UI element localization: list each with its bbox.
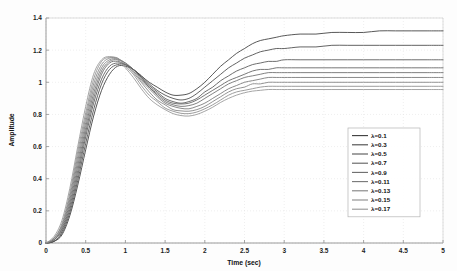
line-chart: 00.511.522.533.544.55 00.20.40.60.811.21…: [0, 0, 457, 271]
legend-label-1[interactable]: λ=0.3: [371, 141, 387, 148]
y-tick-label: 1: [38, 79, 42, 86]
y-tick-label: 0: [38, 239, 42, 246]
figure-container: 00.511.522.533.544.55 00.20.40.60.811.21…: [0, 0, 457, 271]
legend-label-5[interactable]: λ=0.11: [371, 178, 390, 185]
x-axis-label: Time (sec): [227, 259, 261, 267]
x-tick-label: 2: [203, 247, 207, 254]
y-tick-label: 1.2: [33, 47, 42, 54]
y-tick-label: 0.6: [33, 143, 42, 150]
x-tick-label: 1: [124, 247, 128, 254]
legend-label-2[interactable]: λ=0.5: [371, 150, 387, 157]
x-tick-label: 1.5: [161, 247, 170, 254]
y-tick-label: 0.4: [33, 175, 42, 182]
y-tick-label: 0.8: [33, 111, 42, 118]
x-tick-label: 0: [44, 247, 48, 254]
x-tick-label: 4: [362, 247, 366, 254]
legend-label-8[interactable]: λ=0.17: [371, 205, 391, 212]
legend-label-4[interactable]: λ=0.9: [371, 169, 387, 176]
x-tick-label: 2.5: [240, 247, 249, 254]
y-tick-label: 1.4: [33, 14, 42, 21]
y-axis-label: Amplitude: [8, 113, 16, 146]
legend-label-7[interactable]: λ=0.15: [371, 196, 391, 203]
x-tick-label: 4.5: [399, 247, 408, 254]
y-tick-label: 0.2: [33, 207, 42, 214]
x-tick-label: 5: [441, 247, 445, 254]
x-tick-label: 3.5: [319, 247, 328, 254]
x-tick-label: 3: [282, 247, 286, 254]
legend[interactable]: λ=0.1λ=0.3λ=0.5λ=0.7λ=0.9λ=0.11λ=0.13λ=0…: [348, 128, 420, 217]
legend-label-6[interactable]: λ=0.13: [371, 187, 391, 194]
x-tick-label: 0.5: [81, 247, 90, 254]
legend-label-3[interactable]: λ=0.7: [371, 159, 387, 166]
legend-label-0[interactable]: λ=0.1: [371, 132, 387, 139]
